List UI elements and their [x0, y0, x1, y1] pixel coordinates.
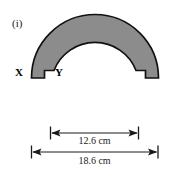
vertex-label-x: X: [15, 66, 23, 78]
dimension-inner-label: 12.6 cm: [78, 135, 110, 146]
figure-page: (i) X Y 12.6 cm: [0, 0, 174, 172]
dimension-outer-label: 18.6 cm: [78, 155, 110, 166]
composite-shape-outline: [32, 15, 159, 79]
dimension-inner-diameter: 12.6 cm: [51, 127, 139, 146]
geometry-figure: (i) X Y 12.6 cm: [0, 0, 174, 172]
vertex-label-y: Y: [55, 66, 63, 78]
dimension-outer-diameter: 18.6 cm: [32, 146, 159, 166]
figure-label: (i): [12, 17, 23, 30]
